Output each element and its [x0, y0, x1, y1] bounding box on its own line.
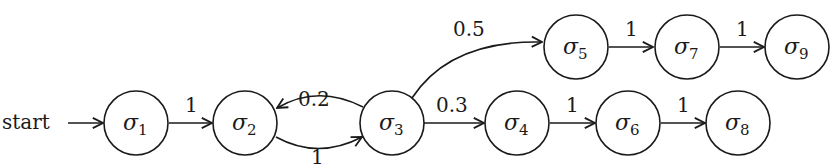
- edge-s3-s5: 0.5: [412, 17, 542, 98]
- svg-text:0.2: 0.2: [298, 87, 330, 111]
- node-sigma-6: σ6: [596, 91, 660, 155]
- edge-s3-s4: 0.3: [424, 93, 484, 123]
- edge-s6-s8: 1: [661, 93, 705, 123]
- svg-text:1: 1: [677, 93, 690, 117]
- svg-text:0.5: 0.5: [453, 17, 485, 41]
- svg-text:0.3: 0.3: [436, 93, 468, 117]
- state-diagram: start 1 1 0.2 0.3 0.5 1 1 1 1 σ1: [0, 0, 836, 168]
- svg-text:1: 1: [185, 93, 198, 117]
- svg-text:1: 1: [566, 93, 579, 117]
- svg-text:1: 1: [625, 17, 638, 41]
- node-sigma-5: σ5: [544, 15, 608, 79]
- node-sigma-4: σ4: [485, 91, 549, 155]
- edge-s3-s2: 0.2: [277, 87, 363, 111]
- node-sigma-9: σ9: [765, 15, 829, 79]
- node-sigma-3: σ3: [360, 91, 424, 155]
- edge-s4-s6: 1: [550, 93, 595, 123]
- svg-text:1: 1: [311, 145, 324, 168]
- svg-text:1: 1: [736, 17, 749, 41]
- node-sigma-7: σ7: [655, 15, 719, 79]
- start-label: start: [2, 110, 50, 134]
- node-sigma-1: σ1: [104, 91, 168, 155]
- edge-s2-s3: 1: [276, 137, 362, 168]
- edge-s1-s2: 1: [169, 93, 212, 123]
- node-sigma-2: σ2: [213, 91, 277, 155]
- edge-s7-s9: 1: [720, 17, 764, 47]
- node-sigma-8: σ8: [706, 91, 770, 155]
- edge-s5-s7: 1: [609, 17, 653, 47]
